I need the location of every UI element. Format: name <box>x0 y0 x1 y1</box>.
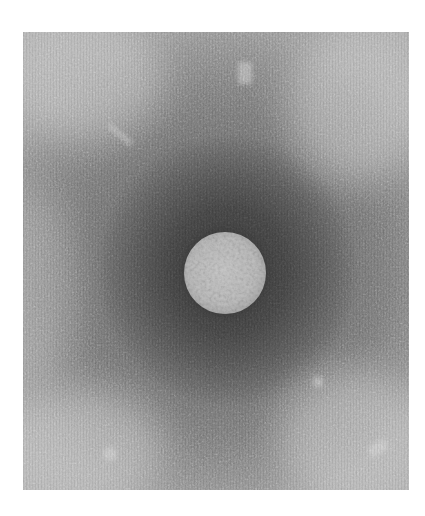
micrograph-image <box>23 32 409 490</box>
page <box>0 0 425 516</box>
virus-particle <box>184 232 266 314</box>
capsomere-texture <box>184 232 266 314</box>
